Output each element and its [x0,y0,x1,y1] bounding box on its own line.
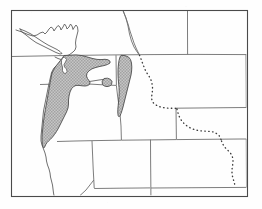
map-canvas [0,0,262,209]
border-idaho-south [121,140,176,141]
border-colorado-south [151,187,247,188]
range-outlier-polygon [102,78,112,86]
map-background [0,0,262,209]
border-utah-south [94,188,150,189]
map-figure [0,0,262,209]
